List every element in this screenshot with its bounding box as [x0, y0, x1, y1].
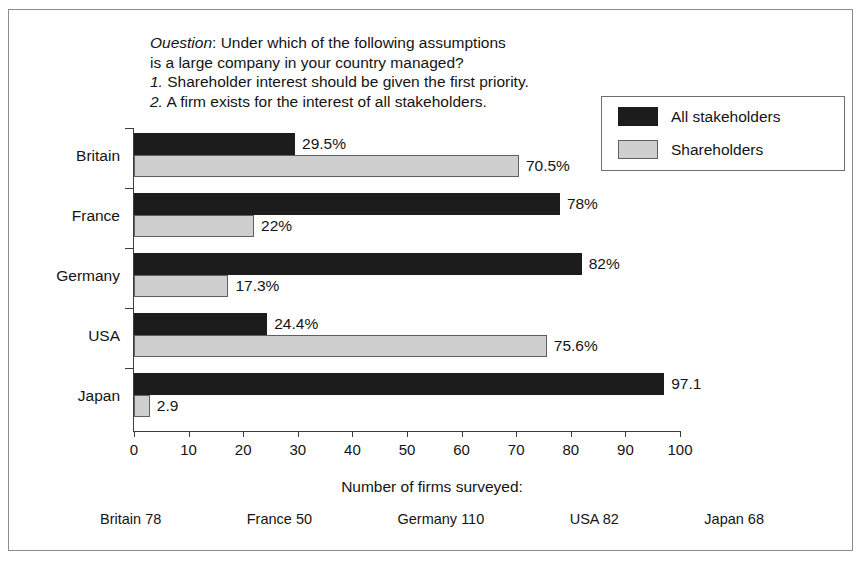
- x-tick-label: 50: [387, 441, 427, 458]
- x-tick-mark: [243, 431, 244, 437]
- bar-britain-shareholders: [134, 155, 519, 177]
- bar-value-france-shareholders: 22%: [261, 217, 292, 235]
- x-tick-mark: [352, 431, 353, 437]
- x-tick-mark: [298, 431, 299, 437]
- bar-value-britain-all-stakeholders: 29.5%: [302, 135, 346, 153]
- x-tick-mark: [625, 431, 626, 437]
- category-label-japan: Japan: [0, 387, 120, 405]
- x-tick-label: 90: [605, 441, 645, 458]
- bar-usa-all-stakeholders: [134, 313, 267, 335]
- bar-value-usa-all-stakeholders: 24.4%: [274, 315, 318, 333]
- survey-count-item: Britain 78: [100, 511, 161, 527]
- x-tick-mark: [680, 431, 681, 437]
- x-tick-label: 60: [442, 441, 482, 458]
- bar-value-germany-shareholders: 17.3%: [235, 277, 279, 295]
- x-tick-mark: [189, 431, 190, 437]
- x-tick-label: 70: [496, 441, 536, 458]
- bar-britain-all-stakeholders: [134, 133, 295, 155]
- survey-counts-row: Britain 78France 50Germany 110USA 82Japa…: [100, 511, 764, 527]
- axis-caption: Number of firms surveyed:: [0, 478, 864, 496]
- bar-value-japan-all-stakeholders: 97.1: [671, 375, 701, 393]
- y-tick-mark: [125, 368, 134, 369]
- bar-japan-all-stakeholders: [134, 373, 664, 395]
- x-tick-mark: [516, 431, 517, 437]
- bar-value-japan-shareholders: 2.9: [157, 397, 179, 415]
- bar-germany-all-stakeholders: [134, 253, 582, 275]
- y-tick-mark: [125, 128, 134, 129]
- survey-count-item: Japan 68: [704, 511, 764, 527]
- x-tick-mark: [407, 431, 408, 437]
- bar-germany-shareholders: [134, 275, 228, 297]
- y-tick-mark: [125, 248, 134, 249]
- category-label-britain: Britain: [0, 147, 120, 165]
- x-tick-label: 0: [114, 441, 154, 458]
- bar-france-shareholders: [134, 215, 254, 237]
- category-label-germany: Germany: [0, 267, 120, 285]
- y-tick-mark: [125, 308, 134, 309]
- x-tick-mark: [462, 431, 463, 437]
- bar-japan-shareholders: [134, 395, 150, 417]
- x-tick-label: 100: [660, 441, 700, 458]
- bar-value-france-all-stakeholders: 78%: [567, 195, 598, 213]
- survey-count-item: Germany 110: [397, 511, 484, 527]
- x-tick-label: 30: [278, 441, 318, 458]
- y-tick-mark: [125, 188, 134, 189]
- x-tick-label: 40: [332, 441, 372, 458]
- x-tick-mark: [134, 431, 135, 437]
- x-tick-mark: [571, 431, 572, 437]
- x-tick-label: 20: [223, 441, 263, 458]
- survey-count-item: France 50: [247, 511, 312, 527]
- bar-value-usa-shareholders: 75.6%: [554, 337, 598, 355]
- chart-figure: Ouestion: Under which of the following a…: [0, 0, 864, 564]
- x-tick-label: 10: [169, 441, 209, 458]
- bar-usa-shareholders: [134, 335, 547, 357]
- x-tick-label: 80: [551, 441, 591, 458]
- survey-count-item: USA 82: [570, 511, 619, 527]
- bar-france-all-stakeholders: [134, 193, 560, 215]
- bar-value-germany-all-stakeholders: 82%: [589, 255, 620, 273]
- bar-value-britain-shareholders: 70.5%: [526, 157, 570, 175]
- category-label-france: France: [0, 207, 120, 225]
- category-label-usa: USA: [0, 327, 120, 345]
